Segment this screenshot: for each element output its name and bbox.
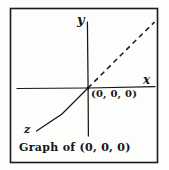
y-axis-line [87,22,88,136]
figure-caption: Graph of (0, 0, 0) [19,142,131,153]
x-axis-label: x [143,74,150,86]
graph-figure: y x z (0, 0, 0) Graph of (0, 0, 0) [0,0,169,170]
z-axis-label: z [24,124,30,135]
origin-point [87,87,90,90]
y-axis-label: y [77,13,85,26]
figure-frame [11,9,158,163]
origin-point-label: (0, 0, 0) [91,89,137,99]
z-axis-line-solid [37,88,89,131]
